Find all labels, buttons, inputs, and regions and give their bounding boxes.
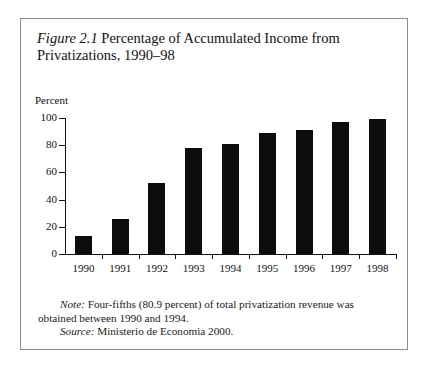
x-tick-label: 1994	[212, 262, 249, 274]
bar	[222, 144, 239, 254]
x-tick-label: 1995	[249, 262, 286, 274]
source-text: Ministerio de Economia 2000.	[94, 325, 233, 337]
figure-source: Source: Ministerio de Economia 2000.	[38, 325, 394, 339]
x-tick-mark	[139, 254, 140, 259]
source-label: Source:	[60, 325, 94, 337]
x-tick-mark	[175, 254, 176, 259]
x-axis-line	[65, 254, 396, 255]
y-tick-label: 40	[23, 194, 57, 205]
bar	[112, 219, 129, 254]
x-tick-mark	[249, 254, 250, 259]
figure-note: Note: Four-fifths (80.9 percent) of tota…	[38, 298, 394, 325]
bar	[296, 130, 313, 254]
note-text: Four-fifths (80.9 percent) of total priv…	[38, 298, 354, 324]
x-tick-mark	[322, 254, 323, 259]
bar-series	[65, 118, 396, 254]
bar	[369, 119, 386, 254]
y-tick-label: 0	[23, 248, 57, 259]
note-label: Note:	[60, 298, 85, 310]
x-tick-label: 1990	[65, 262, 102, 274]
bar	[75, 236, 92, 254]
bar	[185, 148, 202, 254]
x-tick-mark	[359, 254, 360, 259]
y-tick-label: 80	[23, 139, 57, 150]
x-tick-mark	[212, 254, 213, 259]
y-tick-label: 100	[23, 112, 57, 123]
figure-container: Figure 2.1 Percentage of Accumulated Inc…	[20, 18, 408, 350]
bar	[148, 183, 165, 254]
bar	[259, 133, 276, 254]
x-tick-label: 1998	[359, 262, 396, 274]
x-tick-label: 1991	[102, 262, 139, 274]
x-tick-label: 1996	[286, 262, 323, 274]
figure-footnotes: Note: Four-fifths (80.9 percent) of tota…	[38, 298, 394, 339]
x-tick-mark	[396, 254, 397, 259]
x-tick-label: 1997	[322, 262, 359, 274]
x-tick-mark	[102, 254, 103, 259]
x-tick-label: 1993	[175, 262, 212, 274]
x-tick-label: 1992	[139, 262, 176, 274]
x-tick-mark	[286, 254, 287, 259]
y-tick-mark	[59, 254, 65, 255]
y-tick-label: 60	[23, 166, 57, 177]
y-tick-label: 20	[23, 221, 57, 232]
y-axis-title: Percent	[35, 94, 68, 106]
bar	[332, 122, 349, 254]
